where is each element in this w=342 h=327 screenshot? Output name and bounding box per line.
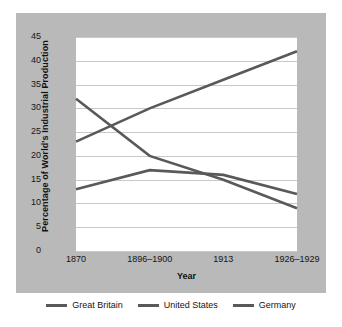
y-axis-tick-label: 20 bbox=[17, 151, 41, 160]
x-axis-tick-label: 1913 bbox=[213, 254, 233, 264]
y-axis-title: Percentage of World's Industrial Product… bbox=[40, 21, 50, 251]
line-swatch-great-britain bbox=[46, 304, 67, 307]
chart-panel: Percentage of World's Industrial Product… bbox=[16, 13, 326, 293]
series-layer bbox=[76, 37, 297, 251]
legend-item-germany[interactable]: Germany bbox=[233, 300, 296, 310]
gridline bbox=[76, 251, 297, 252]
plot-area bbox=[76, 37, 297, 251]
y-axis-tick-label: 10 bbox=[17, 198, 41, 207]
y-axis-tick-label: 0 bbox=[17, 246, 41, 255]
line-swatch-germany bbox=[233, 304, 254, 307]
x-axis-tick-label: 1870 bbox=[66, 254, 86, 264]
x-axis-tick-label: 1896–1900 bbox=[127, 254, 172, 264]
series-line-germany bbox=[76, 170, 297, 194]
y-axis-tick-label: 30 bbox=[17, 103, 41, 112]
y-axis-tick-label: 25 bbox=[17, 127, 41, 136]
line-swatch-united-states bbox=[138, 304, 159, 307]
legend-item-great-britain[interactable]: Great Britain bbox=[46, 300, 123, 310]
y-axis-tick-label: 5 bbox=[17, 222, 41, 231]
legend-label: United States bbox=[164, 300, 218, 310]
legend-label: Germany bbox=[259, 300, 296, 310]
chart-figure: Percentage of World's Industrial Product… bbox=[0, 0, 342, 327]
y-axis-tick-label: 40 bbox=[17, 56, 41, 65]
chart-legend: Great BritainUnited StatesGermany bbox=[0, 300, 342, 310]
series-line-great-britain bbox=[76, 99, 297, 208]
y-axis-tick-label: 45 bbox=[17, 32, 41, 41]
x-axis-tick-label: 1926–1929 bbox=[274, 254, 319, 264]
y-axis-tick-label: 35 bbox=[17, 80, 41, 89]
legend-label: Great Britain bbox=[72, 300, 123, 310]
y-axis-tick-label: 15 bbox=[17, 175, 41, 184]
legend-item-united-states[interactable]: United States bbox=[138, 300, 218, 310]
x-axis-title: Year bbox=[76, 271, 297, 281]
series-line-united-states bbox=[76, 51, 297, 141]
